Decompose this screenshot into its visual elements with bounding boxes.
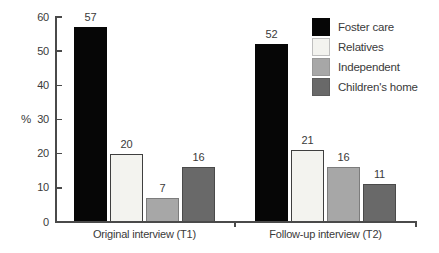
y-tick-label: 60 (27, 11, 49, 24)
legend-item-children-s-home: Children's home (312, 78, 418, 96)
legend-swatch-independent (312, 58, 330, 76)
legend-label-relatives: Relatives (338, 41, 384, 53)
grouped-bar-chart: % 0102030405060 572071652211611 Original… (0, 0, 439, 253)
x-axis-line (55, 221, 417, 223)
legend-item-relatives: Relatives (312, 38, 418, 56)
legend-item-independent: Independent (312, 58, 418, 76)
y-tick (55, 16, 62, 18)
bar-foster-care-group-1 (74, 27, 107, 222)
y-tick-label: 40 (27, 79, 49, 92)
bar-relatives-group-1 (110, 154, 143, 222)
y-tick (55, 50, 62, 52)
x-axis-divider-tick (234, 222, 236, 227)
y-tick-label: 30 (27, 113, 49, 126)
legend-swatch-relatives (312, 38, 330, 56)
bar-relatives-group-2 (291, 150, 324, 222)
legend-label-independent: Independent (338, 61, 400, 73)
y-tick-label: 20 (27, 147, 49, 160)
category-label-follow-up-interview-t2: Follow-up interview (T2) (236, 228, 416, 241)
legend: Foster careRelativesIndependentChildren'… (312, 18, 418, 98)
legend-label-children-s-home: Children's home (338, 81, 418, 93)
y-tick (55, 153, 62, 155)
bar-children-s-home-group-2 (363, 184, 396, 222)
bar-value-label-children-s-home-group-1: 16 (176, 151, 221, 164)
legend-label-foster-care: Foster care (338, 21, 394, 33)
y-tick (55, 187, 62, 189)
category-label-original-interview-t1: Original interview (T1) (55, 228, 235, 241)
legend-swatch-foster-care (312, 18, 330, 36)
y-tick-label: 0 (27, 216, 49, 229)
x-axis-end-tick (415, 222, 417, 227)
y-tick (55, 119, 62, 121)
y-tick (55, 85, 62, 87)
bar-value-label-independent-group-2: 16 (321, 151, 366, 164)
bar-value-label-relatives-group-2: 21 (285, 134, 330, 147)
y-tick-label: 50 (27, 45, 49, 58)
legend-swatch-children-s-home (312, 78, 330, 96)
bar-value-label-foster-care-group-2: 52 (249, 28, 294, 41)
bar-value-label-independent-group-1: 7 (140, 182, 185, 195)
bar-value-label-foster-care-group-1: 57 (68, 11, 113, 24)
bar-value-label-relatives-group-1: 20 (104, 138, 149, 151)
bar-value-label-children-s-home-group-2: 11 (357, 168, 402, 181)
y-tick-label: 10 (27, 181, 49, 194)
legend-item-foster-care: Foster care (312, 18, 418, 36)
bar-children-s-home-group-1 (182, 167, 215, 222)
bar-independent-group-1 (146, 198, 179, 222)
bar-independent-group-2 (327, 167, 360, 222)
bar-foster-care-group-2 (255, 44, 288, 222)
